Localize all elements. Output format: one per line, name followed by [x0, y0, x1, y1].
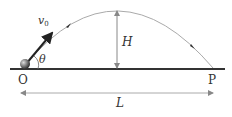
projectile-diagram: O P θ H L v0	[0, 0, 232, 117]
velocity-subscript: 0	[44, 20, 48, 28]
range-label: L	[115, 96, 124, 110]
trajectory-arrow-up-icon	[66, 23, 71, 28]
trajectory-arrow-down-icon	[190, 44, 195, 49]
angle-label: θ	[39, 53, 46, 66]
landing-label: P	[208, 73, 216, 87]
ball	[20, 59, 30, 69]
velocity-label: v0	[38, 14, 49, 28]
height-label: H	[121, 35, 133, 49]
trajectory-curve	[26, 11, 213, 68]
angle-arc	[34, 56, 39, 69]
origin-label: O	[18, 73, 28, 87]
